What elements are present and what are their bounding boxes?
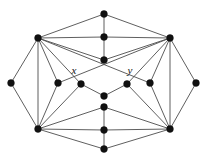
graph-vertex [101, 93, 108, 100]
graph-edge [104, 129, 170, 130]
graph-edge [81, 84, 104, 96]
graph-vertex [193, 80, 200, 87]
graph-edge [104, 129, 170, 149]
graph-figure: xy [0, 0, 207, 163]
graph-edge [170, 83, 196, 129]
graph-edge [104, 84, 127, 96]
graph-edge [170, 38, 196, 83]
graph-vertex [101, 127, 108, 134]
graph-vertex-x [78, 81, 85, 88]
graph-vertex [101, 146, 108, 153]
graph-edge [104, 14, 170, 38]
graph-edge [11, 83, 38, 129]
graph-edge [38, 129, 104, 130]
graph-edge [38, 37, 104, 38]
graph-edge [38, 83, 58, 129]
graph-vertex [101, 34, 108, 41]
graph-vertex [101, 57, 108, 64]
graph-vertex-y [124, 81, 131, 88]
vertex-layer [8, 11, 200, 153]
graph-vertex [167, 35, 174, 42]
graph-edge [104, 37, 170, 38]
graph-vertex [55, 80, 62, 87]
vertex-label-x: x [71, 64, 77, 76]
graph-edge [150, 83, 170, 129]
graph-vertex [167, 126, 174, 133]
graph-vertex [35, 35, 42, 42]
graph-vertex [35, 126, 42, 133]
graph-vertex [147, 80, 154, 87]
graph-vertex [8, 80, 15, 87]
graph-edge [11, 38, 38, 83]
graph-edge [38, 14, 104, 38]
graph-edge [38, 129, 104, 149]
vertex-label-y: y [127, 64, 133, 76]
graph-canvas: xy [0, 0, 207, 163]
graph-vertex [101, 11, 108, 18]
graph-vertex [101, 104, 108, 111]
